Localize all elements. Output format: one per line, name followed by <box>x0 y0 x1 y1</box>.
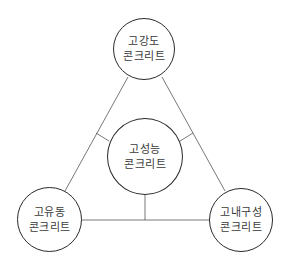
node-label-line2: 콘크리트 <box>220 220 262 235</box>
node-label-line2: 콘크리트 <box>124 157 166 172</box>
node-label-line2: 콘크리트 <box>123 49 165 64</box>
node-label-line1: 고유동 <box>34 205 66 220</box>
node-high-fluidity-concrete: 고유동 콘크리트 <box>17 187 82 252</box>
node-high-durability-concrete: 고내구성 콘크리트 <box>209 188 273 252</box>
connector-center-to-right-edge <box>180 133 193 141</box>
node-high-performance-concrete: 고성능 콘크리트 <box>107 118 183 195</box>
node-label-line2: 콘크리트 <box>29 220 71 235</box>
node-high-strength-concrete: 고강도 콘크리트 <box>113 18 175 80</box>
node-label-line1: 고성능 <box>129 142 161 157</box>
concept-diagram: 고강도 콘크리트 고성능 콘크리트 고유동 콘크리트 고내구성 콘크리트 <box>0 0 289 272</box>
connector-center-to-left-edge <box>96 133 109 141</box>
node-label-line1: 고내구성 <box>220 205 262 220</box>
node-label-line1: 고강도 <box>128 34 160 49</box>
